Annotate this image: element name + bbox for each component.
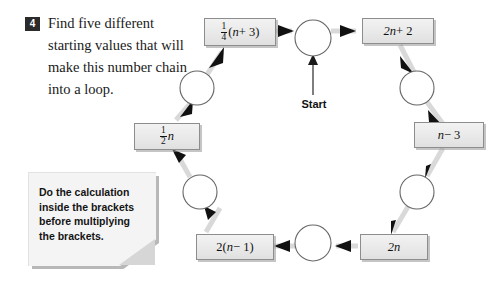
node-circle-2[interactable]	[400, 71, 434, 105]
operation-remainder: + 3)	[239, 25, 260, 40]
hint-note-text: Do the calculation inside the brackets b…	[39, 185, 147, 243]
operation-remainder: + 2	[396, 24, 412, 39]
operation-variable: 2n	[384, 24, 397, 39]
operation-box-n-minus-3[interactable]: n − 3	[414, 122, 484, 148]
fraction-numerator: 1	[221, 22, 228, 32]
fraction-one-half: 1 2	[160, 126, 167, 146]
node-circle-5[interactable]	[183, 175, 217, 209]
operation-box-2-n-minus-1[interactable]: 2( n − 1)	[196, 234, 274, 260]
operation-variable: 2n	[388, 240, 401, 255]
operation-box-2n-plus-2[interactable]: 2n + 2	[362, 18, 434, 44]
operation-remainder: − 1)	[233, 240, 254, 255]
operation-box-2n[interactable]: 2n	[360, 234, 428, 260]
arrowhead-quarter-to-start	[278, 25, 294, 37]
operation-leading: 2(	[216, 240, 226, 255]
operation-box-half-n[interactable]: 1 2 n	[134, 123, 200, 150]
start-label: Start	[288, 98, 340, 110]
operation-variable: n	[168, 129, 174, 144]
arrowhead-2n-to-node4	[335, 240, 351, 252]
arrowhead-node5-to-halfn	[172, 149, 186, 163]
question-number-badge: 4	[25, 17, 40, 31]
hint-note: Do the calculation inside the brackets b…	[28, 172, 155, 265]
node-circle-start[interactable]	[295, 20, 331, 56]
fraction-denominator: 4	[221, 32, 228, 43]
node-circle-3[interactable]	[400, 175, 434, 209]
operation-box-quarter-n-plus-3[interactable]: 1 4 ( n + 3)	[204, 18, 276, 46]
fraction-numerator: 1	[160, 126, 167, 136]
arrowhead-node4-to-2nminus1	[274, 240, 290, 252]
arrowhead-start-to-2nplus2	[340, 25, 356, 37]
fraction-one-quarter: 1 4	[221, 22, 228, 42]
operation-remainder: − 3	[444, 128, 460, 143]
worksheet-page: 4 Find five different starting values th…	[0, 0, 497, 299]
node-circle-4[interactable]	[295, 225, 331, 261]
connector-nminus3-to-node3	[427, 148, 443, 176]
fraction-denominator: 2	[160, 136, 167, 147]
question-text: Find five different starting values that…	[48, 12, 193, 100]
connector-node3-to-2n	[393, 205, 409, 232]
